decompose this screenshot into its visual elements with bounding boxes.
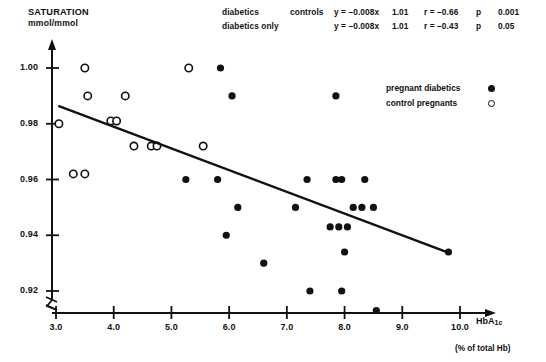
data-point-control-pregnants [81,170,88,177]
data-point-pregnant-diabetics [344,223,351,230]
regression-line-group [58,106,449,253]
data-point-control-pregnants [122,92,129,99]
x-tick-label: 3.0 [41,322,71,332]
y-tick-label: 0.94 [4,229,38,239]
data-point-pregnant-diabetics [228,92,235,99]
data-point-pregnant-diabetics [361,176,368,183]
x-tick-label: 6.0 [214,322,244,332]
data-point-control-pregnants [70,170,77,177]
y-tick-label: 0.96 [4,174,38,184]
x-tick-label: 5.0 [156,322,186,332]
data-point-control-pregnants [81,64,88,71]
data-point-pregnant-diabetics [306,287,313,294]
data-point-pregnant-diabetics [214,176,221,183]
data-point-pregnant-diabetics [234,204,241,211]
data-point-control-pregnants [199,142,206,149]
data-point-pregnant-diabetics [182,176,189,183]
x-tick-label: 4.0 [99,322,129,332]
x-axis-arrow-icon [485,309,496,317]
x-tick-label: 8.0 [330,322,360,332]
data-point-pregnant-diabetics [335,223,342,230]
data-point-control-pregnants [130,142,137,149]
data-point-control-pregnants [55,120,62,127]
data-point-pregnant-diabetics [370,204,377,211]
data-point-pregnant-diabetics [303,176,310,183]
data-point-pregnant-diabetics [327,223,334,230]
axes-group [46,39,496,317]
y-tick-label: 0.98 [4,118,38,128]
data-point-pregnant-diabetics [292,204,299,211]
regression-line [58,106,449,253]
data-point-pregnant-diabetics [332,92,339,99]
x-tick-label: 7.0 [272,322,302,332]
x-tick-label: 9.0 [387,322,417,332]
data-point-control-pregnants [84,92,91,99]
data-point-pregnant-diabetics [223,232,230,239]
scatter-plot-figure: SATURATION mmol/mmol diabetics controls … [0,0,546,362]
data-point-pregnant-diabetics [358,204,365,211]
data-point-pregnant-diabetics [338,176,345,183]
data-point-pregnant-diabetics [260,260,267,267]
data-point-control-pregnants [113,117,120,124]
y-axis-arrow-icon [48,39,56,50]
data-points-group [55,64,452,314]
tick-marks-group [46,68,460,319]
data-point-pregnant-diabetics [217,64,224,71]
data-point-pregnant-diabetics [350,204,357,211]
y-tick-label: 1.00 [4,62,38,72]
plot-canvas [0,0,546,362]
data-point-pregnant-diabetics [338,287,345,294]
data-point-control-pregnants [185,64,192,71]
data-point-pregnant-diabetics [341,248,348,255]
x-tick-label: 10.0 [445,322,475,332]
data-point-pregnant-diabetics [373,307,380,314]
y-tick-label: 0.92 [4,285,38,295]
